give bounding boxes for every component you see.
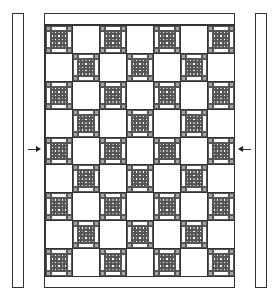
plain-block [207,220,235,249]
plain-block [153,164,181,193]
pieced-block [45,137,73,166]
dark-patch [226,45,229,48]
side-rectangle [229,143,234,160]
dark-patch [226,100,229,103]
plain-block [72,248,100,277]
corner-square [229,271,234,276]
plain-block [99,220,127,249]
left-side-border-strip [12,13,24,288]
dark-patch [64,268,67,271]
dark-patch [91,128,94,131]
plain-block [180,81,208,110]
dark-patch [118,212,121,215]
dark-patch [145,240,148,243]
plain-block [72,192,100,221]
dark-patch [172,268,175,271]
pieced-block [99,192,127,221]
plain-block [180,137,208,166]
right-side-border-strip [255,13,267,288]
dark-patch [118,268,121,271]
pieced-block [99,25,127,54]
plain-block [126,81,154,110]
plain-block [45,164,73,193]
plain-block [45,220,73,249]
dark-patch [145,184,148,187]
plain-block [99,164,127,193]
side-rectangle [159,271,175,276]
dark-patch [199,72,202,75]
pieced-block [207,81,235,110]
plain-block [180,25,208,54]
side-rectangle [105,271,121,276]
pieced-block [153,137,181,166]
pieced-block [99,248,127,277]
pieced-block [126,109,154,138]
side-rectangle [229,31,234,48]
plain-block [153,53,181,82]
dark-patch [64,45,67,48]
pieced-block [72,220,100,249]
side-rectangle [229,87,234,104]
side-rectangle [51,271,67,276]
plain-block [45,53,73,82]
dark-patch [91,72,94,75]
pieced-block [180,164,208,193]
plain-block [126,248,154,277]
dark-patch [199,128,202,131]
arrow-right-icon [28,149,40,150]
dark-patch [64,212,67,215]
pieced-block [126,164,154,193]
dark-patch [64,100,67,103]
dark-patch [91,184,94,187]
plain-block [99,109,127,138]
plain-block [126,25,154,54]
dark-patch [118,45,121,48]
pieced-block [207,25,235,54]
pieced-block [45,25,73,54]
pieced-block [153,192,181,221]
pieced-block [153,248,181,277]
plain-block [99,53,127,82]
side-rectangle [213,271,229,276]
pieced-block [180,53,208,82]
plain-block [72,81,100,110]
plain-block [207,164,235,193]
pieced-block [99,81,127,110]
side-rectangle [229,254,234,271]
plain-block [180,192,208,221]
pieced-block [72,53,100,82]
pieced-block [45,248,73,277]
pieced-block [126,220,154,249]
dark-patch [172,156,175,159]
side-rectangle [229,198,234,215]
plain-block [180,248,208,277]
dark-patch [226,212,229,215]
pieced-block [45,81,73,110]
dark-patch [118,156,121,159]
plain-block [45,109,73,138]
pieced-block [207,192,235,221]
plain-block [126,192,154,221]
dark-patch [226,268,229,271]
plain-block [207,109,235,138]
pieced-block [99,137,127,166]
plain-block [126,137,154,166]
pieced-block [207,248,235,277]
plain-block [153,220,181,249]
dark-patch [118,100,121,103]
plain-block [153,109,181,138]
pieced-block [72,109,100,138]
dark-patch [64,156,67,159]
dark-patch [91,240,94,243]
plain-block [72,25,100,54]
plain-block [72,137,100,166]
pieced-block [72,164,100,193]
pieced-block [207,137,235,166]
plain-block [207,53,235,82]
pieced-block [153,25,181,54]
dark-patch [199,184,202,187]
pieced-block [180,220,208,249]
dark-patch [172,45,175,48]
pieced-block [180,109,208,138]
block-grid [45,24,234,277]
